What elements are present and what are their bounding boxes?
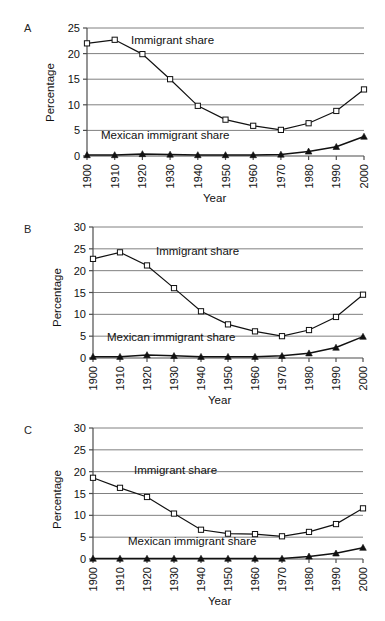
svg-text:20: 20 (68, 48, 80, 60)
plot-area-b: 0510152025301900191019201930194019501960… (0, 205, 385, 412)
svg-text:1930: 1930 (168, 366, 180, 390)
svg-text:1970: 1970 (275, 164, 287, 188)
figure-caption (6, 612, 385, 621)
svg-text:1920: 1920 (136, 164, 148, 188)
svg-text:1960: 1960 (249, 366, 261, 390)
svg-text:0: 0 (74, 150, 80, 162)
svg-text:1910: 1910 (109, 164, 121, 188)
svg-text:1910: 1910 (114, 567, 126, 591)
svg-text:10: 10 (74, 308, 86, 320)
plot-area-a: 0510152025190019101920193019401950196019… (0, 0, 385, 207)
svg-text:1950: 1950 (222, 366, 234, 390)
svg-text:5: 5 (74, 124, 80, 136)
svg-text:1900: 1900 (87, 366, 99, 390)
svg-text:1940: 1940 (195, 366, 207, 390)
svg-text:1980: 1980 (303, 567, 315, 591)
svg-text:30: 30 (74, 422, 86, 434)
chart-panel-a: A Percentage Year 0510152025190019101920… (0, 0, 385, 207)
plot-svg-a: 0510152025190019101920193019401950196019… (0, 0, 385, 207)
svg-text:5: 5 (80, 330, 86, 342)
chart-panel-c: C Percentage Year 0510152025301900191019… (0, 410, 385, 617)
svg-text:1940: 1940 (195, 567, 207, 591)
plot-area-c: 0510152025301900191019201930194019501960… (0, 410, 385, 617)
chart-panel-b: B Percentage Year 0510152025301900191019… (0, 205, 385, 412)
plot-svg-b: 0510152025301900191019201930194019501960… (0, 205, 385, 412)
svg-text:10: 10 (68, 99, 80, 111)
svg-text:15: 15 (74, 287, 86, 299)
svg-text:30: 30 (74, 221, 86, 233)
svg-text:20: 20 (74, 265, 86, 277)
series-label-immigrant: Immigrant share (131, 34, 214, 46)
svg-text:0: 0 (80, 553, 86, 565)
svg-text:1920: 1920 (141, 366, 153, 390)
svg-text:1950: 1950 (222, 567, 234, 591)
svg-text:1960: 1960 (249, 567, 261, 591)
series-label-immigrant: Immigrant share (134, 464, 217, 476)
svg-text:1970: 1970 (276, 366, 288, 390)
series-label-mexican: Mexican immigrant share (107, 331, 235, 343)
svg-text:1900: 1900 (87, 567, 99, 591)
svg-text:15: 15 (74, 488, 86, 500)
svg-text:1920: 1920 (141, 567, 153, 591)
svg-text:25: 25 (74, 444, 86, 456)
svg-text:1900: 1900 (81, 164, 93, 188)
svg-text:1970: 1970 (276, 567, 288, 591)
series-label-immigrant: Immigrant share (156, 245, 239, 257)
svg-text:0: 0 (80, 352, 86, 364)
svg-text:1930: 1930 (168, 567, 180, 591)
svg-text:1960: 1960 (247, 164, 259, 188)
svg-text:1910: 1910 (114, 366, 126, 390)
svg-text:25: 25 (68, 22, 80, 34)
svg-text:1980: 1980 (303, 164, 315, 188)
svg-text:1930: 1930 (164, 164, 176, 188)
svg-text:25: 25 (74, 243, 86, 255)
series-label-mexican: Mexican immigrant share (128, 535, 256, 547)
svg-text:1990: 1990 (330, 366, 342, 390)
svg-text:5: 5 (80, 531, 86, 543)
svg-text:15: 15 (68, 73, 80, 85)
series-label-mexican: Mexican immigrant share (101, 129, 229, 141)
svg-text:1940: 1940 (192, 164, 204, 188)
svg-text:2000: 2000 (357, 567, 369, 591)
svg-text:1950: 1950 (220, 164, 232, 188)
svg-text:1980: 1980 (303, 366, 315, 390)
svg-text:1990: 1990 (330, 164, 342, 188)
plot-svg-c: 0510152025301900191019201930194019501960… (0, 410, 385, 617)
svg-text:2000: 2000 (357, 366, 369, 390)
svg-text:2000: 2000 (358, 164, 370, 188)
svg-text:20: 20 (74, 466, 86, 478)
svg-text:1990: 1990 (330, 567, 342, 591)
svg-text:10: 10 (74, 509, 86, 521)
